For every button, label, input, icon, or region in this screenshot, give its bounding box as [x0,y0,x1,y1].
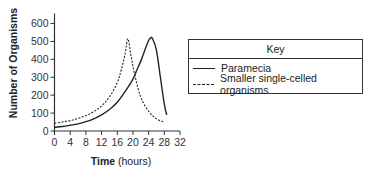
x-axis-title-bold: Time [91,155,115,167]
series-line-paramecia [55,37,167,127]
chart-axes: 0100200300400500600048121620242832 [31,14,186,149]
x-tick-label: 0 [52,136,58,148]
y-tick-label: 500 [31,35,49,47]
x-tick-label: 4 [67,136,73,148]
y-tick-label: 0 [43,125,49,137]
x-tick-label: 20 [127,136,139,148]
y-tick-label: 600 [31,17,49,29]
y-tick-label: 400 [31,53,49,65]
x-tick-label: 28 [158,136,170,148]
x-tick-label: 8 [83,136,89,148]
x-axis-title: Time (hours) [91,155,152,167]
x-tick-label: 24 [143,136,155,148]
chart-series [55,37,167,127]
y-tick-label: 300 [31,71,49,83]
y-axis-title: Number of Organisms [7,8,19,118]
legend-label: Smaller single-celled organisms [220,72,362,96]
x-tick-label: 16 [111,136,123,148]
x-tick-label: 32 [174,136,186,148]
legend: Key Paramecia Smaller single-celled orga… [188,39,363,94]
legend-item-smaller-organisms: Smaller single-celled organisms [189,77,362,91]
legend-title: Key [189,40,362,59]
y-tick-label: 200 [31,89,49,101]
x-axis-title-unit: (hours) [115,155,151,167]
solid-line-swatch-icon [193,68,215,69]
x-tick-label: 12 [96,136,108,148]
dashed-line-swatch-icon [193,84,214,85]
y-tick-label: 100 [31,107,49,119]
